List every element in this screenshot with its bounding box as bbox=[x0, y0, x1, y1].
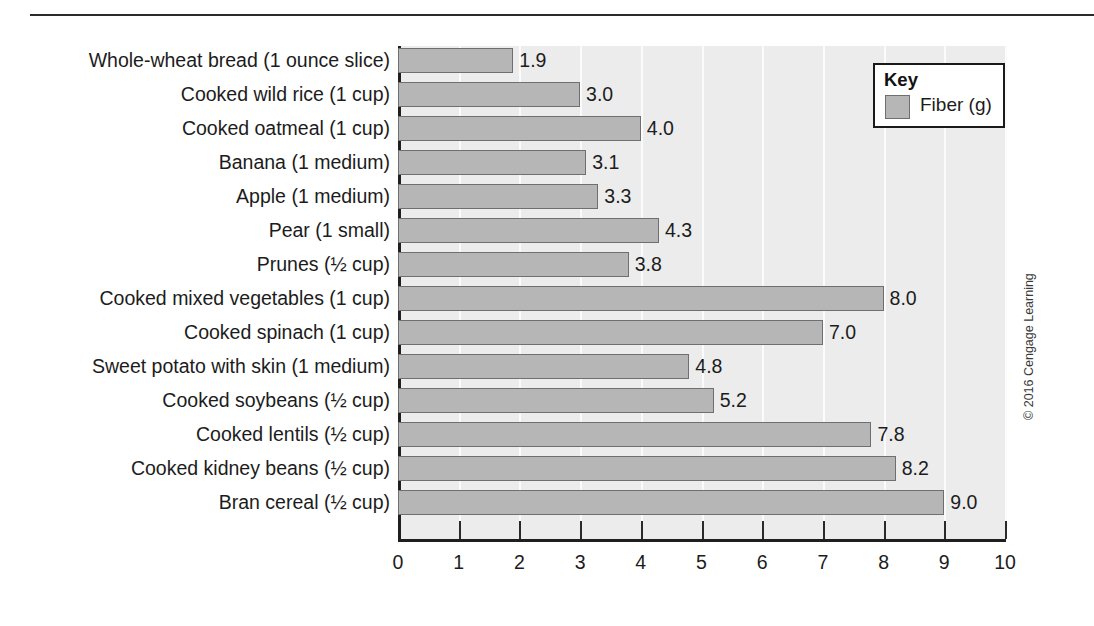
x-axis-tick-label: 6 bbox=[742, 551, 782, 574]
bar-value-label: 3.8 bbox=[629, 252, 662, 277]
bar bbox=[398, 48, 513, 73]
bar bbox=[398, 218, 659, 243]
x-axis-tick-label: 3 bbox=[560, 551, 600, 574]
x-axis-tick-label: 0 bbox=[378, 551, 418, 574]
category-label: Cooked kidney beans (½ cup) bbox=[20, 456, 390, 481]
bar bbox=[398, 82, 580, 107]
bar-value-label: 9.0 bbox=[944, 490, 977, 515]
bar bbox=[398, 150, 586, 175]
bar bbox=[398, 252, 629, 277]
bar-value-label: 1.9 bbox=[513, 48, 546, 73]
bar bbox=[398, 422, 871, 447]
x-axis-tick bbox=[1005, 521, 1007, 539]
category-label: Apple (1 medium) bbox=[20, 184, 390, 209]
chart-legend-key-box: Key Fiber (g) bbox=[873, 63, 1005, 128]
bar-value-label: 8.0 bbox=[884, 286, 917, 311]
bar-value-label: 5.2 bbox=[714, 388, 747, 413]
x-axis-tick bbox=[884, 521, 886, 539]
x-axis-tick-label: 8 bbox=[864, 551, 904, 574]
horizontal-bar-chart: Whole-wheat bread (1 ounce slice)Cooked … bbox=[0, 0, 1094, 626]
bar-value-label: 4.3 bbox=[659, 218, 692, 243]
bar-value-label: 4.0 bbox=[641, 116, 674, 141]
legend-entry-label: Fiber (g) bbox=[920, 94, 992, 116]
category-label: Pear (1 small) bbox=[20, 218, 390, 243]
category-label: Cooked lentils (½ cup) bbox=[20, 422, 390, 447]
category-axis-labels: Whole-wheat bread (1 ounce slice)Cooked … bbox=[20, 48, 390, 524]
bar bbox=[398, 490, 944, 515]
bar bbox=[398, 354, 689, 379]
bar bbox=[398, 116, 641, 141]
bar-value-label: 3.3 bbox=[598, 184, 631, 209]
x-axis-tick bbox=[823, 521, 825, 539]
x-axis-tick bbox=[459, 521, 461, 539]
legend-color-swatch-icon bbox=[885, 95, 910, 119]
bar-value-label: 7.0 bbox=[823, 320, 856, 345]
x-axis-tick bbox=[580, 521, 582, 539]
bar bbox=[398, 388, 714, 413]
category-label: Whole-wheat bread (1 ounce slice) bbox=[20, 48, 390, 73]
x-axis-tick bbox=[641, 521, 643, 539]
x-axis-tick-label: 4 bbox=[621, 551, 661, 574]
x-axis-tick bbox=[702, 521, 704, 539]
bar bbox=[398, 286, 884, 311]
category-label: Cooked wild rice (1 cup) bbox=[20, 82, 390, 107]
gridline bbox=[1005, 46, 1007, 540]
x-axis-tick-label: 2 bbox=[499, 551, 539, 574]
bar-value-label: 4.8 bbox=[689, 354, 722, 379]
x-axis-tick-label: 5 bbox=[682, 551, 722, 574]
bar bbox=[398, 456, 896, 481]
category-label: Banana (1 medium) bbox=[20, 150, 390, 175]
bar bbox=[398, 320, 823, 345]
x-axis-tick bbox=[762, 521, 764, 539]
legend-title: Key bbox=[884, 69, 918, 91]
x-axis-line bbox=[398, 539, 1006, 542]
category-label: Cooked mixed vegetables (1 cup) bbox=[20, 286, 390, 311]
bar-value-label: 3.0 bbox=[580, 82, 613, 107]
bar-value-label: 3.1 bbox=[586, 150, 619, 175]
category-label: Prunes (½ cup) bbox=[20, 252, 390, 277]
bar-value-label: 7.8 bbox=[871, 422, 904, 447]
category-label: Bran cereal (½ cup) bbox=[20, 490, 390, 515]
x-axis-tick bbox=[944, 521, 946, 539]
x-axis-tick-label: 9 bbox=[924, 551, 964, 574]
bar-value-label: 8.2 bbox=[896, 456, 929, 481]
copyright-notice: © 2016 Cengage Learning bbox=[1022, 273, 1036, 420]
x-axis-tick-label: 1 bbox=[439, 551, 479, 574]
category-label: Cooked oatmeal (1 cup) bbox=[20, 116, 390, 141]
bar bbox=[398, 184, 598, 209]
x-axis-tick-label: 7 bbox=[803, 551, 843, 574]
category-label: Sweet potato with skin (1 medium) bbox=[20, 354, 390, 379]
category-label: Cooked soybeans (½ cup) bbox=[20, 388, 390, 413]
x-axis-tick bbox=[519, 521, 521, 539]
category-label: Cooked spinach (1 cup) bbox=[20, 320, 390, 345]
x-axis-tick-label: 10 bbox=[985, 551, 1025, 574]
